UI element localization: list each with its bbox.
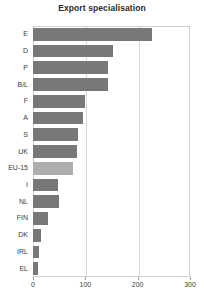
category-label-b-l: B/L [17, 81, 28, 89]
bar-el [33, 262, 38, 275]
category-label-e: E [23, 30, 28, 38]
bar-dk [33, 229, 41, 242]
bar-a [33, 112, 83, 125]
category-label-nl: NL [19, 198, 28, 206]
bar-row [33, 28, 190, 41]
bar-d [33, 45, 113, 58]
bar-row [33, 246, 190, 259]
category-label-s: S [23, 131, 28, 139]
category-label-p: P [23, 64, 28, 72]
bar-fin [33, 212, 48, 225]
bar-uk [33, 145, 77, 158]
category-label-irl: IRL [17, 248, 28, 256]
bar-row [33, 112, 190, 125]
bar-e [33, 28, 152, 41]
category-label-eu-15: EU-15 [8, 164, 28, 172]
x-tick-label-0: 0 [31, 281, 35, 288]
bar-row [33, 212, 190, 225]
bar-row [33, 229, 190, 242]
x-tick-mark [190, 277, 191, 280]
bar-b-l [33, 78, 108, 91]
bar-row [33, 195, 190, 208]
chart-container: Export specialisation EDPB/LFASUKEU-15IN… [0, 0, 204, 303]
category-label-uk: UK [18, 148, 28, 156]
bar-s [33, 128, 78, 141]
category-label-i: I [26, 181, 28, 189]
bar-row [33, 145, 190, 158]
bar-row [33, 95, 190, 108]
bar-row [33, 61, 190, 74]
bar-p [33, 61, 108, 74]
x-tick-label-200: 200 [132, 281, 144, 288]
category-label-d: D [23, 47, 28, 55]
category-axis-labels: EDPB/LFASUKEU-15INLFINDKIRLEL [0, 26, 31, 277]
bar-row [33, 179, 190, 192]
category-label-f: F [24, 97, 28, 105]
x-tick-label-300: 300 [184, 281, 196, 288]
bar-nl [33, 195, 59, 208]
x-tick-mark [33, 277, 34, 280]
x-tick-label-100: 100 [79, 281, 91, 288]
bar-row [33, 162, 190, 175]
chart-title: Export specialisation [0, 3, 204, 13]
category-label-a: A [23, 114, 28, 122]
category-label-el: EL [19, 265, 28, 273]
bar-row [33, 128, 190, 141]
bar-f [33, 95, 85, 108]
x-tick-mark [138, 277, 139, 280]
x-tick-mark [85, 277, 86, 280]
bars-layer [33, 26, 190, 277]
bar-row [33, 45, 190, 58]
bar-row [33, 78, 190, 91]
category-label-fin: FIN [17, 214, 28, 222]
category-label-dk: DK [18, 231, 28, 239]
bar-i [33, 179, 58, 192]
bar-eu-15 [33, 162, 73, 175]
bar-row [33, 262, 190, 275]
bar-irl [33, 246, 39, 259]
